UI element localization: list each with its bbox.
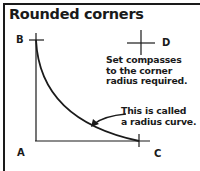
compass-note-line-3: radius required. bbox=[106, 76, 187, 87]
point-label-c: C bbox=[154, 148, 161, 159]
curve-note-line-1: This is called bbox=[121, 106, 196, 117]
point-label-d: D bbox=[162, 37, 170, 48]
curve-note: This is called a radius curve. bbox=[121, 106, 196, 127]
point-label-b: B bbox=[16, 34, 24, 45]
curve-note-line-2: a radius curve. bbox=[121, 117, 196, 128]
point-label-a: A bbox=[17, 147, 25, 158]
compass-note-line-1: Set compasses bbox=[106, 55, 187, 66]
compass-note: Set compasses to the corner radius requi… bbox=[106, 55, 187, 87]
